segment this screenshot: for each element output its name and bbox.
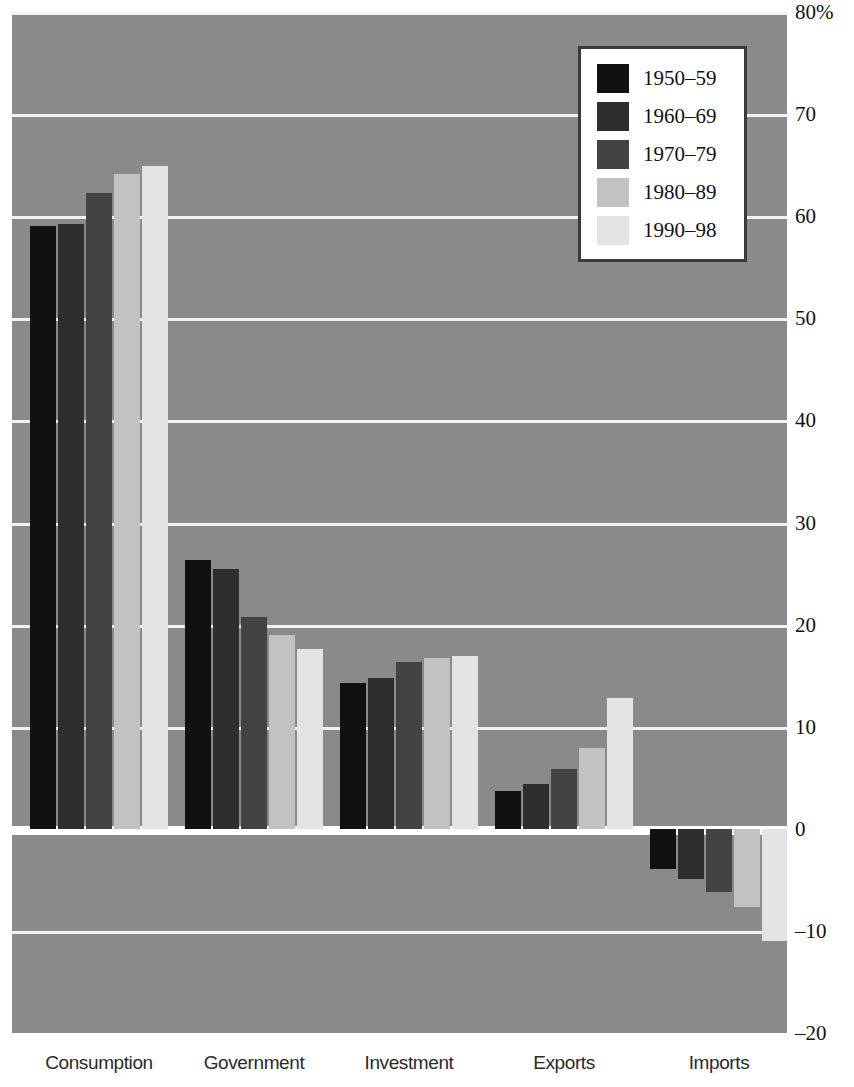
- legend-item-label: 1970–79: [643, 144, 717, 165]
- legend-swatch-icon: [597, 102, 629, 131]
- legend-swatch-icon: [597, 140, 629, 169]
- bar-government-1980-89: [269, 635, 295, 829]
- legend-item-1990-98[interactable]: 1990–98: [597, 211, 744, 249]
- legend-item-label: 1990–98: [643, 220, 717, 241]
- bar-chart: 80%706050403020100–10–20 ConsumptionGove…: [0, 0, 854, 1087]
- bar-consumption-1980-89: [114, 174, 140, 828]
- bar-investment-1990-98: [452, 656, 478, 829]
- y-axis-labels: 80%706050403020100–10–20: [795, 0, 854, 1087]
- bar-group-government: [167, 12, 322, 1033]
- legend-item-1980-89[interactable]: 1980–89: [597, 173, 744, 211]
- y-tick-label-20: 20: [795, 615, 816, 636]
- bar-exports-1960-69: [523, 784, 549, 829]
- bar-imports-1950-59: [650, 829, 676, 869]
- y-tick-label-0: 0: [795, 819, 806, 840]
- x-tick-label-investment: Investment: [329, 1052, 489, 1074]
- y-tick-label-80: 80%: [795, 2, 834, 23]
- bar-exports-1950-59: [495, 791, 521, 829]
- y-tick-label-50: 50: [795, 308, 816, 329]
- x-tick-label-government: Government: [174, 1052, 334, 1074]
- legend-item-1970-79[interactable]: 1970–79: [597, 135, 744, 173]
- legend-item-label: 1980–89: [643, 182, 717, 203]
- y-tick-label-60: 60: [795, 206, 816, 227]
- x-tick-label-consumption: Consumption: [19, 1052, 179, 1074]
- bar-group-consumption: [12, 12, 167, 1033]
- y-tick-label-10: 10: [795, 717, 816, 738]
- bar-investment-1980-89: [424, 658, 450, 829]
- bar-exports-1980-89: [579, 748, 605, 829]
- bar-consumption-1960-69: [58, 224, 84, 828]
- legend-item-1960-69[interactable]: 1960–69: [597, 97, 744, 135]
- bar-imports-1990-98: [762, 829, 787, 941]
- bar-investment-1960-69: [368, 678, 394, 829]
- legend-swatch-icon: [597, 64, 629, 93]
- y-tick-label-40: 40: [795, 410, 816, 431]
- bar-consumption-1990-98: [142, 166, 168, 829]
- legend-item-1950-59[interactable]: 1950–59: [597, 59, 744, 97]
- bar-government-1970-79: [241, 617, 267, 828]
- bar-exports-1970-79: [551, 769, 577, 829]
- bar-consumption-1950-59: [30, 226, 56, 828]
- legend: 1950–591960–691970–791980–891990–98: [578, 46, 747, 262]
- legend-item-label: 1960–69: [643, 106, 717, 127]
- bar-government-1990-98: [297, 649, 323, 829]
- bar-investment-1950-59: [340, 683, 366, 829]
- bar-imports-1980-89: [734, 829, 760, 908]
- x-tick-label-exports: Exports: [484, 1052, 644, 1074]
- bar-government-1960-69: [213, 569, 239, 828]
- y-tick-label-70: 70: [795, 104, 816, 125]
- bar-investment-1970-79: [396, 662, 422, 828]
- bar-exports-1990-98: [607, 698, 633, 829]
- y-tick-label-30: 30: [795, 513, 816, 534]
- y-tick-label--10: –10: [795, 921, 827, 942]
- bar-consumption-1970-79: [86, 193, 112, 829]
- x-tick-label-imports: Imports: [639, 1052, 799, 1074]
- legend-swatch-icon: [597, 216, 629, 245]
- legend-swatch-icon: [597, 178, 629, 207]
- x-axis-labels: ConsumptionGovernmentInvestmentExportsIm…: [0, 1052, 854, 1087]
- legend-item-label: 1950–59: [643, 68, 717, 89]
- bar-group-investment: [322, 12, 477, 1033]
- bar-imports-1970-79: [706, 829, 732, 892]
- bar-imports-1960-69: [678, 829, 704, 879]
- y-tick-label--20: –20: [795, 1023, 827, 1044]
- bar-government-1950-59: [185, 560, 211, 829]
